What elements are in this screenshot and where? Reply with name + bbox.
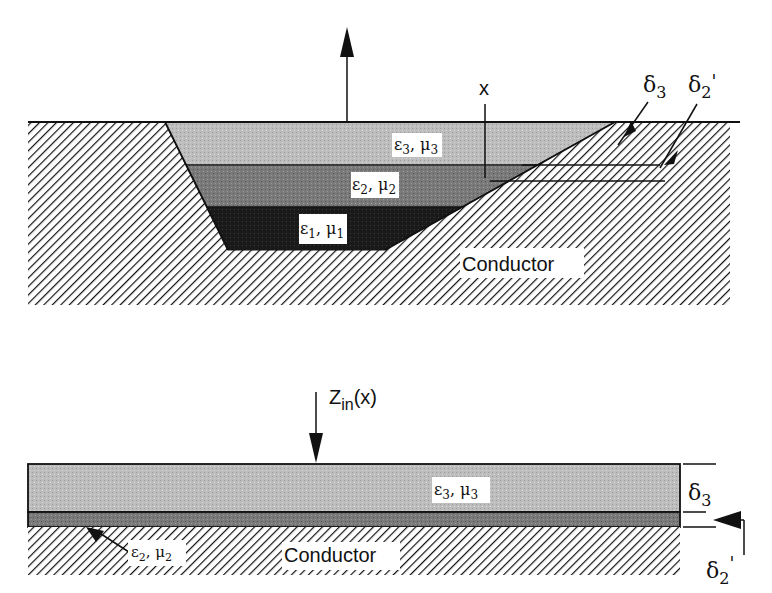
bottom-diagram: Zin(x) ε3, μ3 ε2, μ2 Conductor δ3	[28, 386, 744, 588]
delta2-prime-arrow	[713, 511, 744, 555]
bottom-dielectric-layer-3	[28, 464, 680, 512]
arrow-up-icon	[340, 27, 354, 122]
conductor-label-top: Conductor	[462, 253, 555, 275]
delta3-label: δ3	[643, 72, 666, 102]
bottom-delta3-label: δ3	[688, 480, 711, 510]
conductor-label-bottom: Conductor	[284, 544, 377, 566]
arrow-down-icon	[309, 392, 323, 463]
top-diagram: x δ3 δ2' ε3, μ3 ε2, μ2 ε1, μ1 Conductor	[28, 27, 740, 305]
delta2-prime-label: δ2'	[688, 71, 716, 102]
bottom-dielectric-layer-2	[28, 512, 680, 527]
x-label: x	[479, 77, 489, 99]
waveguide-layer-diagram: x δ3 δ2' ε3, μ3 ε2, μ2 ε1, μ1 Conductor	[0, 0, 772, 593]
zin-label: Zin(x)	[329, 386, 377, 413]
bottom-delta2-prime-label: δ2'	[706, 553, 734, 588]
